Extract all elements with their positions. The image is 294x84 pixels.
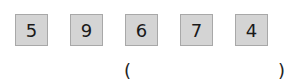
digit-card-3: 6: [125, 14, 158, 46]
digit-card-5: 4: [235, 14, 268, 46]
answer-open-paren: (: [124, 60, 131, 81]
digit-card-1: 5: [15, 14, 48, 46]
answer-close-paren: ): [278, 60, 285, 81]
digit-card-2: 9: [70, 14, 103, 46]
digit-card-4: 7: [180, 14, 213, 46]
